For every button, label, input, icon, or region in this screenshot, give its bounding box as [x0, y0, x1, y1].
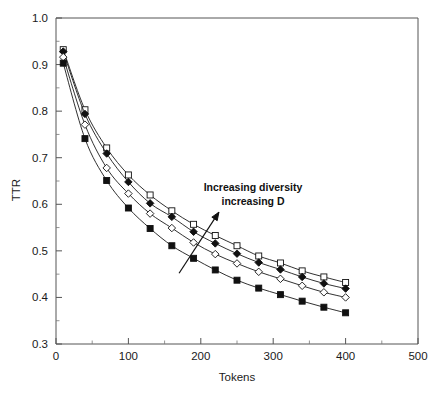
y-tick-label: 1.0	[32, 12, 48, 24]
data-marker-filled-square	[125, 205, 131, 211]
data-marker-open-square	[277, 260, 283, 266]
data-marker-filled-square	[256, 285, 262, 291]
y-tick-label: 0.4	[32, 291, 49, 303]
y-tick-label: 0.5	[32, 245, 48, 257]
data-marker-open-square	[321, 274, 327, 280]
data-marker-filled-square	[147, 226, 153, 232]
data-marker-filled-square	[321, 304, 327, 310]
data-marker-filled-square	[212, 267, 218, 273]
x-tick-label: 500	[408, 350, 427, 362]
x-tick-label: 100	[119, 350, 138, 362]
data-marker-filled-square	[277, 292, 283, 298]
annotation-line-1: Increasing diversity	[204, 181, 303, 193]
data-marker-open-square	[234, 243, 240, 249]
x-tick-label: 400	[336, 350, 355, 362]
data-marker-filled-square	[104, 178, 110, 184]
data-marker-filled-square	[299, 298, 305, 304]
data-marker-open-square	[212, 232, 218, 238]
data-marker-open-square	[191, 221, 197, 227]
data-marker-filled-square	[191, 255, 197, 261]
y-tick-label: 0.8	[32, 105, 48, 117]
data-marker-open-square	[256, 253, 262, 259]
y-axis-title: TTR	[10, 179, 22, 201]
y-tick-label: 0.6	[32, 198, 48, 210]
data-marker-open-square	[125, 172, 131, 178]
x-tick-label: 300	[264, 350, 283, 362]
x-tick-label: 200	[191, 350, 210, 362]
x-axis-title: Tokens	[219, 371, 256, 383]
data-marker-filled-square	[60, 60, 66, 66]
data-marker-filled-square	[82, 136, 88, 142]
x-tick-label: 0	[53, 350, 59, 362]
data-marker-open-square	[147, 192, 153, 198]
annotation-line-2: increasing D	[221, 195, 284, 207]
y-tick-label: 0.7	[32, 152, 48, 164]
y-tick-label: 0.3	[32, 338, 48, 350]
y-tick-label: 0.9	[32, 59, 48, 71]
data-marker-filled-square	[343, 310, 349, 316]
data-marker-filled-square	[169, 243, 175, 249]
ttr-vs-tokens-chart: 01002003004005000.30.40.50.60.70.80.91.0…	[0, 0, 444, 399]
chart-container: 01002003004005000.30.40.50.60.70.80.91.0…	[0, 0, 444, 399]
data-marker-filled-square	[234, 277, 240, 283]
